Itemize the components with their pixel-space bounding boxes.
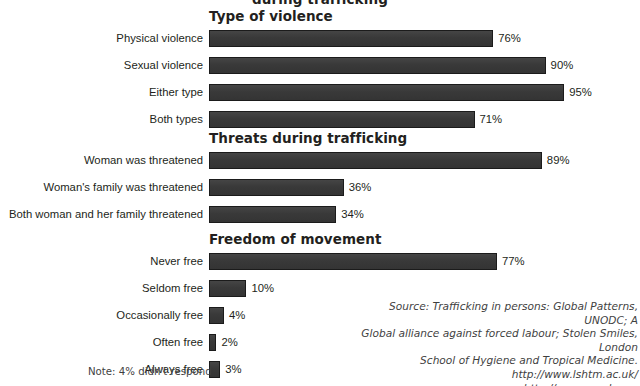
- bar: [209, 307, 224, 324]
- bar-value-label: 90%: [551, 57, 574, 74]
- chart-note: Note: 4% didn't respond: [88, 366, 212, 377]
- section-header: Threats during trafficking: [209, 130, 407, 146]
- chart-row: Never free77%: [0, 253, 640, 270]
- source-line-2: Global alliance against forced labour; S…: [348, 327, 638, 354]
- source-line-3: School of Hygiene and Tropical Medicine.: [348, 354, 638, 368]
- bar-value-label: 3%: [225, 361, 241, 378]
- chart-title: during trafficking: [0, 0, 640, 7]
- chart-row: Physical violence76%: [0, 30, 640, 47]
- bar-value-label: 77%: [502, 253, 525, 270]
- bar: [209, 179, 344, 196]
- bar-value-label: 71%: [480, 111, 503, 128]
- bar-category-label: Physical violence: [0, 30, 203, 47]
- chart-row: Woman was threatened89%: [0, 152, 640, 169]
- bar: [209, 30, 493, 47]
- chart-row: Sexual violence90%: [0, 57, 640, 74]
- bar-category-label: Both woman and her family threatened: [0, 206, 203, 223]
- bar: [209, 253, 497, 270]
- chart-row: Seldom free10%: [0, 280, 640, 297]
- bar: [209, 84, 564, 101]
- bar-value-label: 10%: [251, 280, 274, 297]
- bar: [209, 206, 336, 223]
- section-header: Freedom of movement: [209, 231, 381, 247]
- bar-category-label: Woman's family was threatened: [0, 179, 203, 196]
- source-url-lshtm: http://www.lshtm.ac.uk/: [348, 368, 638, 382]
- bar: [209, 334, 216, 351]
- bar-category-label: Often free: [0, 334, 203, 351]
- chart-row: Woman's family was threatened36%: [0, 179, 640, 196]
- bar-value-label: 2%: [221, 334, 237, 351]
- bar-value-label: 34%: [341, 206, 364, 223]
- bar-category-label: Seldom free: [0, 280, 203, 297]
- bar: [209, 111, 475, 128]
- chart-row: Both types71%: [0, 111, 640, 128]
- chart-row: Both woman and her family threatened34%: [0, 206, 640, 223]
- bar-category-label: Woman was threatened: [0, 152, 203, 169]
- chart-row: Either type95%: [0, 84, 640, 101]
- bar: [209, 152, 542, 169]
- source-citation: Source: Trafficking in persons: Global P…: [348, 300, 638, 386]
- bar-value-label: 4%: [229, 307, 245, 324]
- bar-value-label: 89%: [547, 152, 570, 169]
- chart-figure: during trafficking Type of violencePhysi…: [0, 0, 640, 386]
- bar-value-label: 76%: [498, 30, 521, 47]
- bar-category-label: Either type: [0, 84, 203, 101]
- bar-value-label: 95%: [569, 84, 592, 101]
- bar-value-label: 36%: [349, 179, 372, 196]
- bar-category-label: Never free: [0, 253, 203, 270]
- bar: [209, 57, 546, 74]
- source-line-1: Source: Trafficking in persons: Global P…: [348, 300, 638, 327]
- bar-category-label: Both types: [0, 111, 203, 128]
- section-header: Type of violence: [209, 8, 333, 24]
- source-url-unodc: http://www.unodc.org: [348, 382, 638, 386]
- bar-category-label: Occasionally free: [0, 307, 203, 324]
- bar: [209, 280, 246, 297]
- bar-category-label: Sexual violence: [0, 57, 203, 74]
